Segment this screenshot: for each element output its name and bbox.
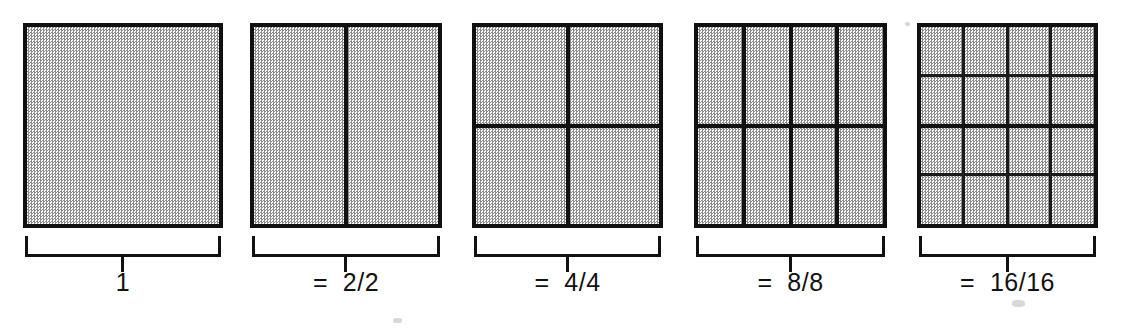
unit-square-eighths bbox=[694, 23, 887, 228]
unit-square-halves bbox=[250, 23, 442, 228]
fraction-label-whole: 1 bbox=[25, 268, 221, 296]
fraction-figure: 1= 2/2= 4/4= 8/8= 16/16 bbox=[0, 0, 1129, 336]
fraction-label-sixteenths: = 16/16 bbox=[919, 268, 1096, 296]
scan-artifact bbox=[1012, 300, 1025, 307]
division-line-horizontal bbox=[921, 124, 1094, 128]
measure-bracket-eighths bbox=[696, 236, 885, 257]
fraction-label-quarters: = 4/4 bbox=[474, 268, 661, 296]
division-line-vertical bbox=[344, 27, 348, 224]
division-line-horizontal bbox=[921, 173, 1094, 176]
fraction-label-eighths: = 8/8 bbox=[696, 268, 885, 296]
measure-bracket-whole bbox=[25, 236, 221, 257]
division-line-horizontal bbox=[921, 74, 1094, 77]
fraction-label-halves: = 2/2 bbox=[252, 268, 440, 296]
division-line-horizontal bbox=[476, 124, 659, 128]
measure-bracket-sixteenths bbox=[919, 236, 1096, 257]
unit-square-whole bbox=[23, 23, 223, 228]
measure-bracket-quarters bbox=[474, 236, 661, 257]
unit-square-sixteenths bbox=[917, 23, 1098, 228]
scan-artifact bbox=[905, 22, 910, 26]
unit-square-quarters bbox=[472, 23, 663, 228]
measure-bracket-halves bbox=[252, 236, 440, 257]
scan-artifact bbox=[393, 318, 402, 323]
division-line-horizontal bbox=[698, 124, 883, 128]
